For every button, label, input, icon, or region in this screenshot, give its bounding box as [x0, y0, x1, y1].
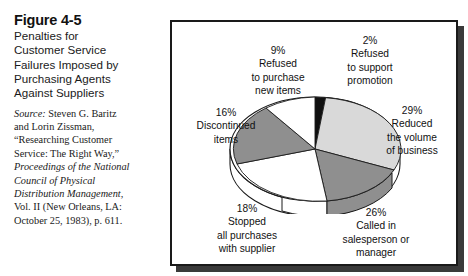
pie-label-line: new items [230, 84, 326, 97]
pie-label-line: Stopped [192, 215, 302, 228]
source-line-italic: Proceedings of the National [14, 160, 162, 173]
source-line: Service: The Right Way,” [14, 147, 162, 160]
pie-label-line: the volume [368, 131, 456, 144]
pie-label-percent: 16% [178, 106, 274, 119]
figure-title-line: Against Suppliers [14, 86, 162, 100]
figure-page: Figure 4-5 Penalties for Customer Servic… [0, 0, 468, 276]
pie-label-line: Reduced [368, 117, 456, 130]
figure-title-line: Failures Imposed by [14, 58, 162, 72]
figure-number: Figure 4-5 [14, 12, 162, 29]
pie-label-line: items [178, 133, 274, 146]
pie-label-refused-to-support-promotion: 2% Refused to support promotion [324, 34, 416, 87]
pie-label-percent: 26% [322, 206, 430, 219]
figure-title: Penalties for Customer Service Failures … [14, 29, 162, 101]
pie-label-reduced-volume-of-business: 29% Reduced the volume of business [368, 104, 456, 157]
source-label: Source: [14, 108, 46, 119]
source-line: Source: Steven G. Baritz [14, 107, 162, 120]
pie-label-stopped-all-purchases-with-supplier: 18% Stopped all purchases with supplier [192, 202, 302, 255]
pie-label-line: with supplier [192, 242, 302, 255]
pie-label-line: to support [324, 61, 416, 74]
pie-label-refused-to-purchase-new-items: 9% Refused to purchase new items [230, 44, 326, 97]
pie-label-discontinued-items: 16% Discontinued items [178, 106, 274, 146]
pie-label-line: Discontinued [178, 119, 274, 132]
source-line-italic: Council of Physical [14, 174, 162, 187]
source-line: and Lorin Zissman, [14, 120, 162, 133]
figure-title-line: Customer Service [14, 43, 162, 57]
figure-title-line: Penalties for [14, 29, 162, 43]
pie-label-percent: 2% [324, 34, 416, 47]
pie-label-percent: 9% [230, 44, 326, 57]
pie-label-line: Refused [230, 57, 326, 70]
source-line-italic: Distribution Management, [14, 187, 162, 200]
pie-label-line: to purchase [230, 71, 326, 84]
source-line: “Researching Customer [14, 133, 162, 146]
pie-label-line: salesperson or [322, 233, 430, 246]
pie-label-line: Called in [322, 219, 430, 232]
pie-label-line: of business [368, 144, 456, 157]
pie-label-percent: 18% [192, 202, 302, 215]
pie-label-line: promotion [324, 74, 416, 87]
pie-label-line: manager [322, 246, 430, 259]
pie-label-percent: 29% [368, 104, 456, 117]
pie-label-line: Refused [324, 47, 416, 60]
source-line: October 25, 1983), p. 611. [14, 214, 162, 227]
figure-caption-block: Figure 4-5 Penalties for Customer Servic… [14, 12, 162, 227]
pie-label-called-in-salesperson-or-manager: 26% Called in salesperson or manager [322, 206, 430, 259]
figure-title-line: Purchasing Agents [14, 72, 162, 86]
chart-panel: 9% Refused to purchase new items 2% Refu… [170, 20, 458, 266]
figure-source-note: Source: Steven G. Baritz and Lorin Zissm… [14, 107, 162, 227]
pie-label-line: all purchases [192, 229, 302, 242]
source-line: Vol. II (New Orleans, LA: [14, 200, 162, 213]
source-text: Steven G. Baritz [46, 108, 117, 119]
